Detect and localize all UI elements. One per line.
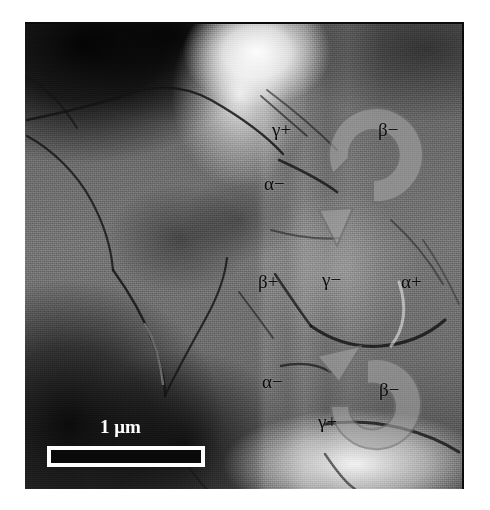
label-alpha-plus-mid: α+ (401, 272, 422, 291)
lower-rotation-arrow (25, 24, 462, 489)
label-beta-plus-mid: β+ (258, 272, 278, 291)
scale-bar-label: 1 μm (100, 417, 141, 436)
label-gamma-plus-bottom: γ+ (318, 412, 337, 431)
micrograph-image: γ+ β− α− β+ γ− α+ α− β− γ+ 1 μm (25, 22, 464, 489)
label-gamma-plus-top: γ+ (272, 120, 291, 139)
scale-bar (47, 446, 205, 467)
micrograph-figure: γ+ β− α− β+ γ− α+ α− β− γ+ 1 μm (0, 0, 490, 510)
label-gamma-minus-mid: γ− (322, 270, 341, 289)
label-beta-minus-bottom: β− (379, 380, 399, 399)
label-beta-minus-top: β− (378, 120, 398, 139)
label-alpha-minus-bottom: α− (262, 372, 283, 391)
label-alpha-minus-top: α− (264, 174, 285, 193)
